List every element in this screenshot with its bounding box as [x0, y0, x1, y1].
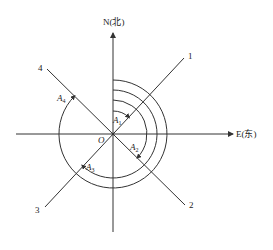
origin-point — [112, 133, 115, 136]
svg-text:A4: A4 — [56, 93, 66, 104]
angle-label-a4: A4 — [56, 93, 66, 104]
direction-label-4: 4 — [38, 63, 43, 73]
direction-line-4-2 — [47, 69, 185, 205]
direction-label-2: 2 — [189, 200, 194, 210]
direction-label-1: 1 — [188, 51, 193, 61]
svg-text:A3: A3 — [85, 162, 95, 173]
azimuth-diagram: N(北) E(东) O 1 2 3 4 A1 A2 A3 A4 — [0, 0, 273, 250]
direction-label-3: 3 — [35, 205, 40, 215]
svg-text:A1: A1 — [112, 115, 122, 126]
east-label: E(东) — [236, 128, 257, 139]
svg-text:A2: A2 — [129, 142, 139, 153]
angle-label-a3: A3 — [85, 162, 95, 173]
angle-label-a1: A1 — [112, 115, 122, 126]
origin-label: O — [98, 135, 105, 145]
north-label: N(北) — [103, 17, 125, 27]
angle-label-a2: A2 — [129, 142, 139, 153]
